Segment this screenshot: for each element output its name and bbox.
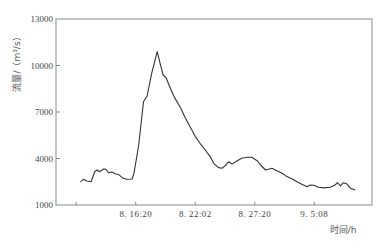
x-axis-title: 时间/h xyxy=(330,224,357,235)
x-tick-label: 8. 27:20 xyxy=(238,209,271,219)
y-tick-label: 4000 xyxy=(35,154,54,164)
y-tick-label: 1000 xyxy=(35,200,54,210)
y-axis-title: 流量/（m³/s） xyxy=(11,32,22,91)
x-tick-label: 9. 5:08 xyxy=(300,209,328,219)
x-tick-label: 8. 22:02 xyxy=(179,209,212,219)
plot-frame xyxy=(56,19,372,205)
flow-chart: 1000400070001000013000 8. 16:208. 22:028… xyxy=(0,0,385,249)
y-tick-label: 10000 xyxy=(31,61,54,71)
flow-line xyxy=(80,52,355,190)
x-tick-label: 8. 16:20 xyxy=(119,209,152,219)
chart-canvas: 1000400070001000013000 8. 16:208. 22:028… xyxy=(0,0,385,249)
y-tick-label: 7000 xyxy=(35,107,54,117)
y-tick-label: 13000 xyxy=(31,14,54,24)
